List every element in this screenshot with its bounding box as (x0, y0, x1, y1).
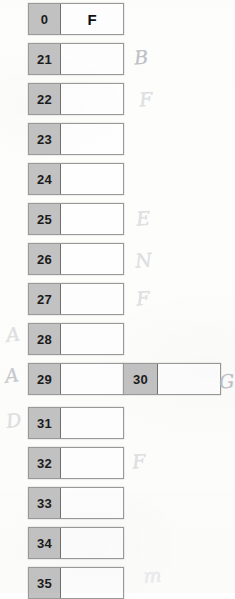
margin-annotation-left: A (4, 365, 20, 386)
cell-block[interactable]: 33 (28, 487, 124, 519)
row-value-cell[interactable] (61, 568, 123, 598)
row-key-cell: 32 (29, 448, 61, 478)
margin-annotation-right: N (134, 250, 152, 270)
row-key-cell: 25 (29, 204, 61, 234)
row-value-cell[interactable] (61, 164, 123, 194)
cell-block-secondary[interactable]: 30 (123, 363, 221, 395)
cell-block[interactable]: 28 (28, 323, 124, 355)
row-value-cell[interactable] (61, 448, 123, 478)
row-key-cell: 21 (29, 44, 61, 74)
cell-block[interactable]: 34 (28, 527, 124, 559)
row-key-cell: 31 (29, 408, 61, 438)
row-value-cell[interactable] (61, 84, 123, 114)
cell-block[interactable]: 31 (28, 407, 124, 439)
row-key-cell: 27 (29, 284, 61, 314)
cell-block[interactable]: 23 (28, 123, 124, 155)
margin-annotation-right: B (133, 48, 148, 68)
cell-block[interactable]: 24 (28, 163, 124, 195)
row-key-cell: 23 (29, 124, 61, 154)
row-value-cell[interactable]: F (61, 4, 123, 34)
cell-block[interactable]: 25 (28, 203, 124, 235)
row-value-cell[interactable] (61, 488, 123, 518)
row-key-cell: 34 (29, 528, 61, 558)
cell-block[interactable]: 29 (28, 363, 124, 395)
row-key-cell: 29 (29, 364, 61, 394)
row-key-cell: 35 (29, 568, 61, 598)
row-key-cell: 0 (29, 4, 61, 34)
cell-block[interactable]: 26 (28, 243, 124, 275)
row-value-cell[interactable] (61, 284, 123, 314)
cell-block[interactable]: 22 (28, 83, 124, 115)
row-value-cell[interactable] (61, 204, 123, 234)
row-value-cell[interactable] (61, 44, 123, 74)
row-value-cell[interactable] (61, 528, 123, 558)
row-value-cell[interactable] (61, 324, 123, 354)
cell-block[interactable]: 35 (28, 567, 124, 599)
margin-annotation-right: F (131, 452, 145, 472)
row-key-cell: 26 (29, 244, 61, 274)
cell-block[interactable]: 0 F (28, 3, 124, 35)
cell-block[interactable]: 27 (28, 283, 124, 315)
row-value-cell[interactable] (61, 364, 123, 394)
margin-annotation-left: A (5, 324, 21, 345)
row-key-cell: 33 (29, 488, 61, 518)
row-key-cell: 24 (29, 164, 61, 194)
row-value-cell[interactable] (158, 364, 220, 394)
row-value-cell[interactable] (61, 408, 123, 438)
margin-annotation-right: F (135, 289, 149, 309)
row-key-cell: 28 (29, 324, 61, 354)
row-value-cell[interactable] (61, 244, 123, 274)
row-value-cell[interactable] (61, 124, 123, 154)
row-key-cell: 22 (29, 84, 61, 114)
margin-annotation-right: F (138, 90, 152, 110)
margin-annotation-trailing: m (142, 565, 161, 585)
margin-annotation-right: E (135, 209, 150, 229)
cell-block[interactable]: 32 (28, 447, 124, 479)
cell-block[interactable]: 21 (28, 43, 124, 75)
margin-annotation-left: D (5, 410, 22, 431)
row-key-cell: 30 (124, 364, 158, 394)
